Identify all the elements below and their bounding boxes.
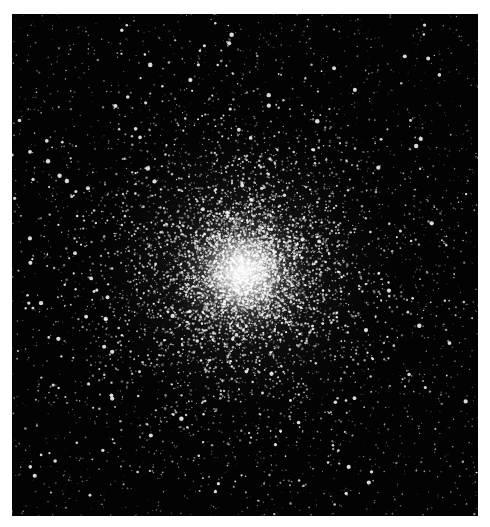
star-field-canvas <box>12 14 478 516</box>
star-cluster-image <box>12 14 478 516</box>
